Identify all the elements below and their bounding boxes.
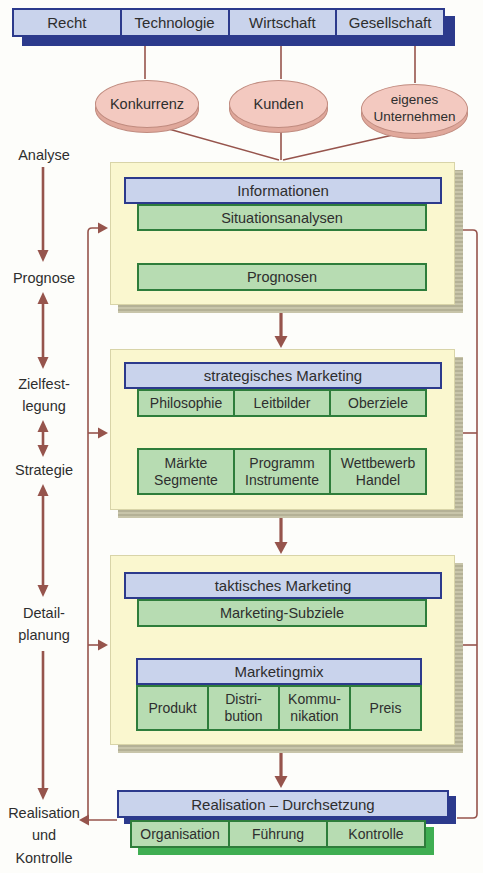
konkurrenz-ellipse: Konkurrenz: [95, 80, 199, 128]
arrowhead: [275, 336, 288, 348]
arrowhead-into-panel1: [98, 223, 108, 234]
marketing-subziele-box: Marketing-Subziele: [137, 599, 427, 627]
arrowhead: [275, 776, 288, 788]
distribution-cell: Distri- bution: [209, 687, 280, 729]
philosophie-cell: Philosophie: [139, 391, 235, 415]
marketing-process-diagram: Recht Technologie Wirtschaft Gesellschaf…: [0, 0, 483, 873]
maerkte-segmente-cell: Märkte Segmente: [139, 450, 235, 493]
stage-label-analyse: Analyse: [0, 144, 88, 166]
strategic-header: strategisches Marketing: [124, 362, 442, 389]
stage-label-zielfestlegung: Zielfest- legung: [0, 373, 88, 418]
environment-bar: Recht Technologie Wirtschaft Gesellschaf…: [12, 8, 445, 37]
stage-arrows: [38, 167, 49, 800]
realisation-header: Realisation – Durchsetzung: [117, 790, 449, 818]
preis-cell: Preis: [351, 687, 420, 729]
arrowhead: [38, 585, 49, 597]
arrowhead: [38, 788, 49, 800]
stage-label-prognose: Prognose: [0, 267, 88, 289]
stage-label-detailplanung: Detail- planung: [0, 602, 88, 647]
situationsanalysen-box: Situationsanalysen: [137, 204, 427, 231]
information-header: Informationen: [124, 177, 442, 204]
kunden-label: Kunden: [254, 95, 304, 113]
eigenes-unternehmen-label: eigenes Unternehmen: [374, 92, 456, 126]
wettbewerb-handel-cell: Wettbewerb Handel: [331, 450, 425, 493]
marketingmix-header: Marketingmix: [136, 658, 422, 685]
env-cell-wirtschaft: Wirtschaft: [230, 10, 338, 35]
produkt-cell: Produkt: [138, 687, 209, 729]
arrowhead: [38, 420, 49, 432]
arrowhead: [38, 357, 49, 369]
line-eigenes-to-panel: [283, 132, 406, 160]
arrowhead-into-panel3: [98, 640, 108, 651]
strategic-row2: Märkte Segmente Programm Instrumente Wet…: [137, 448, 427, 495]
kontrolle-cell: Kontrolle: [328, 822, 424, 846]
env-cell-recht: Recht: [14, 10, 122, 35]
env-cell-gesellschaft: Gesellschaft: [337, 10, 443, 35]
stage-label-realisation-kontrolle: Realisation und Kontrolle: [0, 802, 88, 869]
arrowhead: [38, 484, 49, 496]
prognosen-box: Prognosen: [137, 263, 427, 291]
oberziele-cell: Oberziele: [331, 391, 425, 415]
stage-label-strategie: Strategie: [0, 459, 88, 481]
eigenes-unternehmen-ellipse: eigenes Unternehmen: [361, 84, 468, 134]
tactical-header: taktisches Marketing: [124, 572, 442, 599]
kunden-ellipse: Kunden: [229, 80, 328, 128]
kommunikation-cell: Kommu- nikation: [280, 687, 351, 729]
arrowhead: [38, 445, 49, 457]
organisation-cell: Organisation: [132, 822, 230, 846]
marketingmix-row: Produkt Distri- bution Kommu- nikation P…: [136, 685, 422, 731]
realisation-row: Organisation Führung Kontrolle: [130, 820, 426, 848]
leitbilder-cell: Leitbilder: [235, 391, 331, 415]
fuehrung-cell: Führung: [230, 822, 328, 846]
arrowhead: [38, 292, 49, 304]
programm-instrumente-cell: Programm Instrumente: [235, 450, 331, 493]
strategic-row1: Philosophie Leitbilder Oberziele: [137, 389, 427, 417]
arrowhead-into-panel2: [98, 428, 108, 439]
arrowhead: [275, 542, 288, 554]
arrowhead: [38, 250, 49, 262]
konkurrenz-label: Konkurrenz: [110, 95, 184, 113]
env-cell-technologie: Technologie: [122, 10, 230, 35]
